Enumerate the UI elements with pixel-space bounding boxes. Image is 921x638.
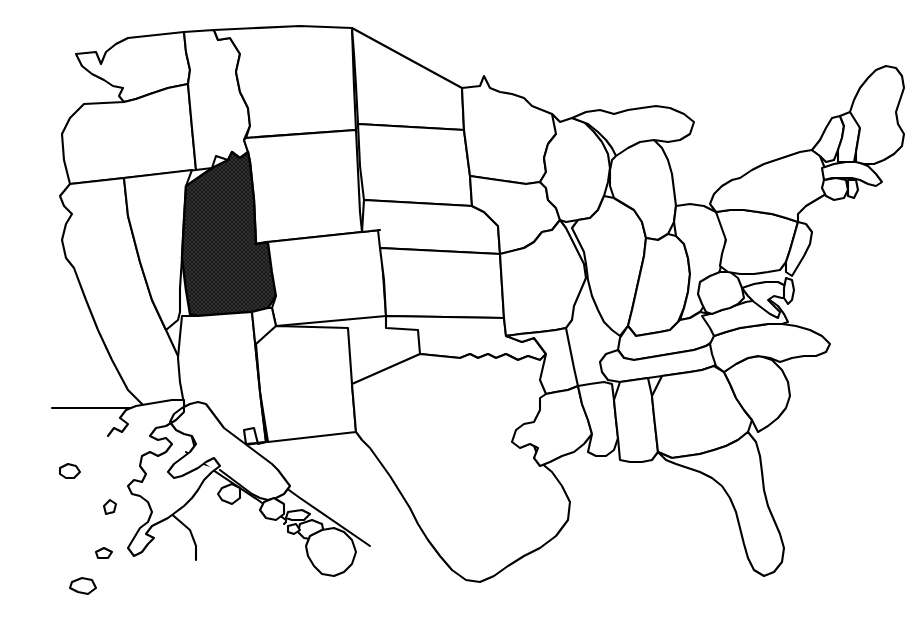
state-delaware[interactable]: Delaware — [784, 278, 794, 304]
state-wyoming[interactable]: Wyoming — [244, 130, 362, 244]
state-rhode-island[interactable]: Rhode Island — [848, 180, 858, 198]
us-state-locator-map: Map of the United States with Utah highl… — [0, 0, 921, 638]
us-map-svg: Washington Oregon California Nevada Idah… — [0, 0, 921, 638]
state-alabama[interactable]: Alabama — [614, 378, 658, 462]
state-south-dakota[interactable]: South Dakota — [358, 124, 472, 206]
state-kansas[interactable]: Kansas — [380, 248, 504, 318]
state-connecticut[interactable]: Connecticut — [822, 178, 848, 200]
hawaii-island-molokai[interactable] — [286, 510, 310, 520]
state-colorado[interactable]: Colorado — [268, 230, 386, 326]
